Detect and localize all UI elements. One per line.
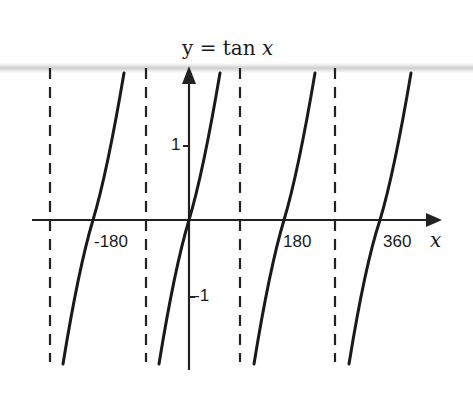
x-tick-label-180: 180 [283, 232, 311, 252]
y-tick-label-1: 1 [171, 135, 180, 155]
x-axis-arrow-icon [426, 213, 442, 227]
y-tick-label-neg1: -1 [194, 286, 209, 306]
chart-title: y = tan x [182, 36, 273, 60]
y-axis-arrow-icon [182, 66, 196, 84]
tan-branch-3 [254, 73, 315, 364]
x-tick-label-neg180: -180 [94, 232, 128, 252]
tan-branch-1 [63, 73, 124, 364]
x-tick-label-360: 360 [383, 232, 411, 252]
x-axis-label: x [430, 228, 441, 252]
tan-branch-4 [349, 73, 411, 364]
